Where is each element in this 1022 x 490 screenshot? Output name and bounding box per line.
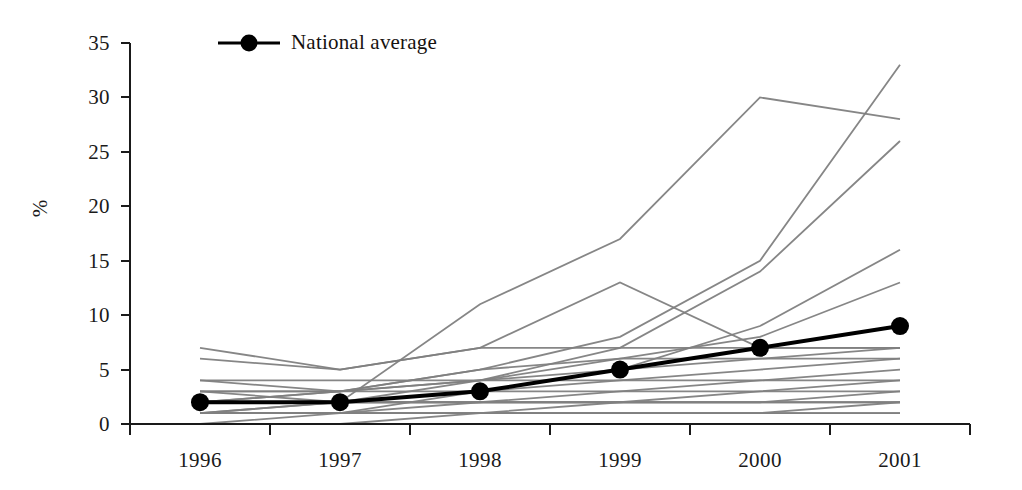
y-tick-label: 10	[62, 303, 110, 328]
series-line	[200, 97, 900, 413]
series-data-point	[471, 382, 489, 400]
series-line	[200, 413, 900, 424]
series-data-point	[751, 339, 769, 357]
y-tick-label: 5	[62, 357, 110, 382]
chart-container: % 05101520253035 19961997199819992000200…	[0, 0, 1022, 490]
y-tick-label: 15	[62, 248, 110, 273]
y-tick-label: 0	[62, 412, 110, 437]
legend-line-marker-icon	[216, 33, 282, 53]
y-tick-label: 20	[62, 194, 110, 219]
x-tick-label: 2000	[738, 448, 782, 473]
series-data-point	[331, 393, 349, 411]
series-data-point	[891, 317, 909, 335]
x-tick-label: 1999	[598, 448, 642, 473]
series-line	[200, 65, 900, 402]
y-axis-title: %	[28, 200, 53, 218]
chart-plot-area	[0, 0, 1022, 490]
x-tick-label: 1996	[178, 448, 222, 473]
chart-legend: National average	[216, 30, 437, 55]
series-data-point	[611, 361, 629, 379]
y-tick-label: 25	[62, 139, 110, 164]
x-tick-label: 1998	[458, 448, 502, 473]
x-tick-label: 2001	[878, 448, 922, 473]
y-tick-label: 30	[62, 85, 110, 110]
y-tick-label: 35	[62, 31, 110, 56]
legend-label-national-average: National average	[291, 30, 437, 55]
background-series-group	[200, 65, 900, 424]
series-data-point	[191, 393, 209, 411]
x-tick-label: 1997	[318, 448, 362, 473]
series-line	[200, 413, 900, 424]
